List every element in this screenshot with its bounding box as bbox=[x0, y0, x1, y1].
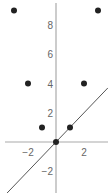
y-tick-label: 2 bbox=[47, 108, 53, 119]
data-point bbox=[81, 81, 87, 87]
data-point bbox=[95, 8, 101, 14]
tick-labels: −22−22468 bbox=[22, 20, 87, 177]
y-tick-label: 4 bbox=[47, 79, 53, 90]
data-point bbox=[11, 8, 17, 14]
scatter-plot: −22−22468 bbox=[0, 0, 112, 193]
data-point bbox=[67, 124, 73, 130]
y-tick-label: −2 bbox=[42, 166, 54, 177]
data-point bbox=[25, 81, 31, 87]
axes bbox=[5, 3, 108, 193]
data-point bbox=[53, 139, 59, 145]
y-tick-label: 8 bbox=[47, 20, 53, 31]
data-point bbox=[39, 124, 45, 130]
x-tick-label: 2 bbox=[81, 147, 87, 158]
x-tick-label: −2 bbox=[22, 147, 34, 158]
y-tick-label: 6 bbox=[47, 49, 53, 60]
